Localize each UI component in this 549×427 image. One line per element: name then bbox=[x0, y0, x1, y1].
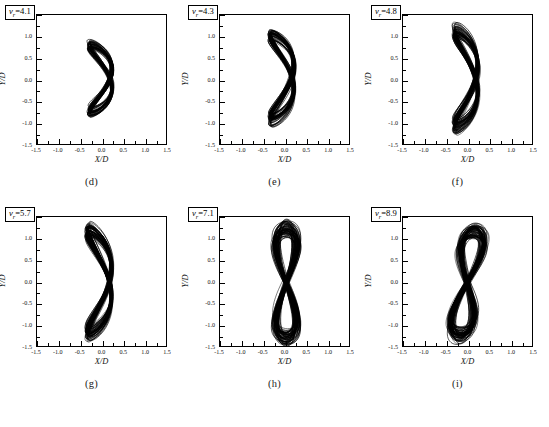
y-tick-minor bbox=[220, 135, 223, 136]
x-tick-minor bbox=[92, 141, 93, 144]
y-tick-minor bbox=[220, 91, 223, 92]
x-tick-label: -1.5 bbox=[397, 147, 407, 153]
vr-subscript-h: r bbox=[196, 213, 198, 220]
y-tick-major bbox=[220, 217, 225, 218]
x-tick-minor bbox=[414, 141, 415, 144]
y-tick-label: -0.5 bbox=[376, 98, 398, 104]
x-tick-label: -1.5 bbox=[214, 147, 224, 153]
y-tick-minor bbox=[37, 315, 40, 316]
y-tick-major bbox=[403, 283, 408, 284]
panel-cell-h: vr=7.1 X/D Y/D (h) -1.5-1.0-0.50.00.51.0… bbox=[183, 202, 366, 404]
x-tick-label: -0.5 bbox=[75, 349, 85, 355]
trajectory-traces-f bbox=[403, 15, 532, 144]
y-tick-label: 0.5 bbox=[10, 55, 32, 61]
x-tick-minor bbox=[479, 343, 480, 346]
x-tick-minor bbox=[70, 343, 71, 346]
x-tick-label: -1.0 bbox=[236, 147, 246, 153]
x-tick-minor bbox=[523, 141, 524, 144]
y-tick-minor bbox=[220, 113, 223, 114]
y-tick-minor bbox=[37, 70, 40, 71]
y-tick-label: -0.5 bbox=[193, 300, 215, 306]
x-tick-label: -1.0 bbox=[419, 349, 429, 355]
y-tick-major bbox=[220, 37, 225, 38]
y-tick-label: -1.5 bbox=[193, 344, 215, 350]
y-tick-label: 1.0 bbox=[193, 235, 215, 241]
x-tick-major bbox=[307, 139, 308, 144]
y-tick-label: 1.0 bbox=[10, 33, 32, 39]
x-tick-label: -1.5 bbox=[397, 349, 407, 355]
vr-value-g: 5.7 bbox=[20, 208, 31, 218]
y-tick-minor bbox=[403, 48, 406, 49]
y-tick-major bbox=[37, 15, 42, 16]
y-tick-label: -1.0 bbox=[10, 322, 32, 328]
x-tick-label: -1.5 bbox=[214, 349, 224, 355]
y-tick-label: 0.0 bbox=[10, 77, 32, 83]
y-tick-minor bbox=[403, 91, 406, 92]
x-tick-label: 1.0 bbox=[507, 147, 515, 153]
y-tick-major bbox=[220, 124, 225, 125]
y-tick-minor bbox=[37, 337, 40, 338]
x-tick-major bbox=[264, 341, 265, 346]
x-tick-minor bbox=[231, 343, 232, 346]
x-tick-major bbox=[512, 341, 513, 346]
panel-label-d: (d) bbox=[0, 176, 183, 187]
annotation-vr-i: vr=8.9 bbox=[371, 207, 401, 222]
panel-label-e: (e) bbox=[183, 176, 366, 187]
vr-subscript-d: r bbox=[13, 11, 15, 18]
y-tick-major bbox=[220, 261, 225, 262]
x-tick-minor bbox=[48, 343, 49, 346]
y-tick-label: -0.5 bbox=[10, 300, 32, 306]
y-axis-title-h: Y/D bbox=[181, 274, 190, 287]
trajectory-traces-h bbox=[220, 217, 349, 346]
y-tick-major bbox=[220, 15, 225, 16]
y-tick-minor bbox=[403, 113, 406, 114]
x-axis-title-g: X/D bbox=[36, 357, 167, 366]
panel-h: vr=7.1 X/D Y/D (h) -1.5-1.0-0.50.00.51.0… bbox=[183, 202, 366, 382]
x-tick-label: -1.0 bbox=[53, 349, 63, 355]
x-tick-label: 1.0 bbox=[141, 147, 149, 153]
x-tick-major bbox=[81, 139, 82, 144]
y-tick-minor bbox=[403, 272, 406, 273]
y-tick-minor bbox=[220, 70, 223, 71]
x-tick-label: 1.0 bbox=[141, 349, 149, 355]
y-tick-label: -1.0 bbox=[193, 322, 215, 328]
x-tick-major bbox=[220, 139, 221, 144]
y-tick-minor bbox=[220, 48, 223, 49]
x-axis-title-e: X/D bbox=[219, 155, 350, 164]
x-tick-major bbox=[329, 139, 330, 144]
x-tick-major bbox=[329, 341, 330, 346]
x-tick-minor bbox=[523, 343, 524, 346]
y-tick-minor bbox=[37, 250, 40, 251]
x-tick-label: 0.0 bbox=[98, 147, 106, 153]
y-tick-major bbox=[220, 304, 225, 305]
y-tick-major bbox=[37, 239, 42, 240]
y-tick-minor bbox=[403, 70, 406, 71]
x-tick-major bbox=[469, 139, 470, 144]
vr-value-e: 4.3 bbox=[203, 6, 214, 16]
x-tick-label: 0.0 bbox=[281, 349, 289, 355]
y-tick-label: -1.5 bbox=[376, 142, 398, 148]
y-tick-label: 0.5 bbox=[376, 55, 398, 61]
x-tick-minor bbox=[458, 141, 459, 144]
y-tick-major bbox=[220, 239, 225, 240]
x-axis-title-h: X/D bbox=[219, 357, 350, 366]
x-tick-label: -0.5 bbox=[441, 349, 451, 355]
panel-cell-e: vr=4.3 X/D Y/D (e) -1.5-1.0-0.50.00.51.0… bbox=[183, 0, 366, 202]
x-tick-label: 0.5 bbox=[303, 349, 311, 355]
x-tick-label: 1.0 bbox=[507, 349, 515, 355]
x-axis-title-f: X/D bbox=[402, 155, 533, 164]
y-tick-label: -1.5 bbox=[10, 142, 32, 148]
y-tick-major bbox=[403, 102, 408, 103]
x-tick-major bbox=[512, 139, 513, 144]
panel-f: vr=4.8 X/D Y/D (f) -1.5-1.0-0.50.00.51.0… bbox=[366, 0, 549, 180]
y-tick-major bbox=[220, 81, 225, 82]
y-tick-minor bbox=[220, 26, 223, 27]
x-tick-major bbox=[59, 139, 60, 144]
x-tick-major bbox=[242, 341, 243, 346]
x-tick-minor bbox=[157, 141, 158, 144]
x-tick-major bbox=[469, 341, 470, 346]
x-tick-major bbox=[146, 341, 147, 346]
y-tick-label: 0.0 bbox=[193, 279, 215, 285]
x-tick-major bbox=[37, 341, 38, 346]
y-axis-title-i: Y/D bbox=[364, 274, 373, 287]
